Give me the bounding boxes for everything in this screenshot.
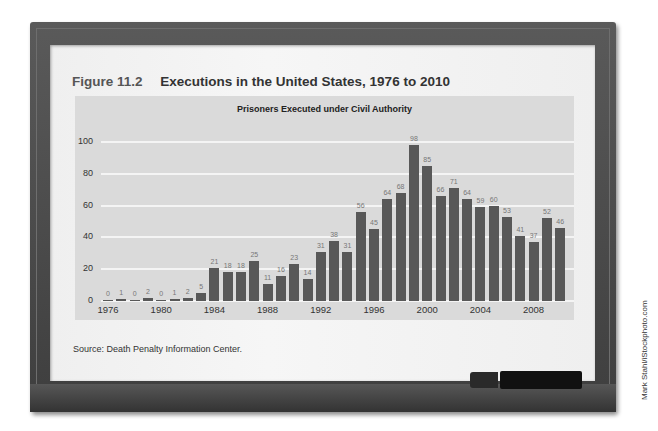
x-tick-label: 1984	[199, 304, 229, 315]
y-tick-label: 80	[75, 168, 93, 178]
x-tick-label: 2004	[465, 304, 495, 315]
y-tick-label: 100	[75, 136, 93, 146]
bar-1994	[342, 252, 352, 301]
bar-2000	[422, 166, 432, 301]
bar-1976	[103, 300, 113, 302]
bar-1997	[382, 199, 392, 301]
bar-1978	[130, 300, 140, 302]
bar-value-label: 23	[286, 254, 302, 261]
bar-1981	[170, 299, 180, 301]
bar-2009	[542, 218, 552, 301]
bar-2006	[502, 217, 512, 301]
bar-2001	[436, 196, 446, 301]
bar-value-label: 14	[300, 269, 316, 276]
x-tick-label: 1980	[146, 304, 176, 315]
bar-value-label: 38	[326, 231, 342, 238]
bar-1986	[236, 272, 246, 301]
bar-value-label: 85	[419, 156, 435, 163]
bar-value-label: 16	[273, 266, 289, 273]
bar-value-label: 68	[393, 183, 409, 190]
marker-body	[500, 371, 582, 389]
bar-1998	[396, 193, 406, 301]
bar-2007	[515, 236, 525, 301]
bar-1987	[249, 261, 259, 301]
marker-cap	[470, 372, 498, 388]
bar-value-label: 25	[246, 251, 262, 258]
bar-value-label: 45	[366, 219, 382, 226]
bar-1979	[143, 298, 153, 301]
bar-2004	[475, 207, 485, 301]
y-tick-label: 0	[75, 295, 93, 305]
bar-value-label: 5	[193, 283, 209, 290]
x-tick-label: 2000	[412, 304, 442, 315]
bar-1995	[356, 212, 366, 301]
x-tick-label: 1996	[359, 304, 389, 315]
photo-credit: Mark Stahl/iStockphoto.com	[640, 300, 649, 400]
bar-value-label: 11	[260, 274, 276, 281]
bar-1989	[276, 276, 286, 301]
bar-2010	[555, 228, 565, 301]
bar-value-label: 46	[552, 218, 568, 225]
bar-value-label: 56	[353, 202, 369, 209]
y-tick-label: 40	[75, 231, 93, 241]
bar-value-label: 71	[446, 178, 462, 185]
bar-1999	[409, 145, 419, 301]
bar-value-label: 64	[459, 189, 475, 196]
y-tick-label: 20	[75, 263, 93, 273]
bar-1982	[183, 298, 193, 301]
bar-1993	[329, 241, 339, 301]
bar-2008	[529, 242, 539, 301]
bar-value-label: 98	[406, 135, 422, 142]
bar-1980	[156, 300, 166, 302]
bar-value-label: 18	[233, 262, 249, 269]
bar-1984	[209, 268, 219, 301]
x-tick-label: 1992	[306, 304, 336, 315]
bar-1991	[303, 279, 313, 301]
y-tick-label: 60	[75, 200, 93, 210]
gridline	[101, 173, 574, 175]
bar-2003	[462, 199, 472, 301]
figure-caption: Executions in the United States, 1976 to…	[160, 74, 450, 89]
x-tick-label: 1988	[253, 304, 283, 315]
bar-value-label: 31	[339, 242, 355, 249]
figure-title: Figure 11.2 Executions in the United Sta…	[72, 74, 450, 89]
bar-1985	[223, 272, 233, 301]
bar-value-label: 60	[486, 196, 502, 203]
figure-number: Figure 11.2	[72, 74, 143, 89]
bar-1977	[116, 299, 126, 301]
bar-value-label: 66	[433, 186, 449, 193]
bar-1983	[196, 293, 206, 301]
bar-1996	[369, 229, 379, 301]
source-note: Source: Death Penalty Information Center…	[73, 344, 242, 354]
gridline	[101, 141, 574, 143]
bar-1988	[263, 284, 273, 301]
bar-2002	[449, 188, 459, 301]
chart-panel: Prisoners Executed under Civil Authority…	[75, 96, 574, 320]
bar-value-label: 52	[539, 208, 555, 215]
bar-value-label: 31	[313, 242, 329, 249]
bar-value-label: 37	[526, 232, 542, 239]
x-tick-label: 1976	[93, 304, 123, 315]
chart-title: Prisoners Executed under Civil Authority	[75, 104, 574, 114]
bar-1990	[289, 264, 299, 301]
bar-2005	[489, 206, 499, 301]
bar-value-label: 53	[499, 207, 515, 214]
bar-value-label: 64	[379, 189, 395, 196]
x-tick-label: 2008	[519, 304, 549, 315]
bar-1992	[316, 252, 326, 301]
